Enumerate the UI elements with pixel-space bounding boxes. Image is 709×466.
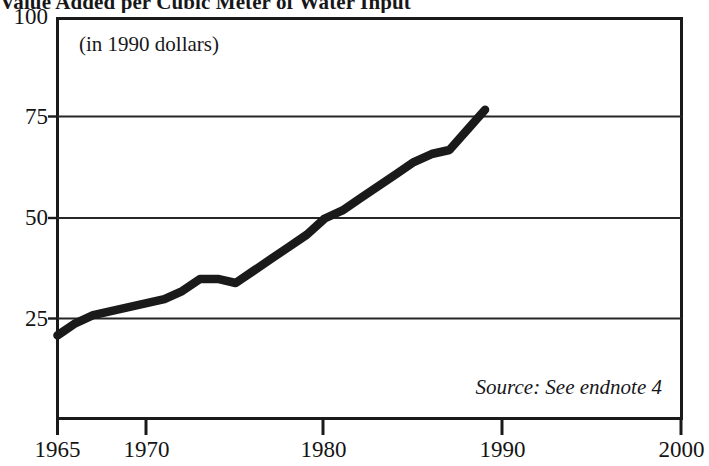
- y-axis-label-100: 100: [0, 5, 48, 28]
- x-axis-label-1980: 1980: [281, 438, 366, 461]
- x-axis-label-1965: 1965: [15, 438, 100, 461]
- y-axis-label-25: 25: [0, 307, 48, 330]
- x-axis-ticks: [58, 420, 682, 435]
- y-axis-ticks: [48, 117, 57, 319]
- source-note: Source: See endnote 4: [476, 376, 662, 398]
- y-axis-label-50: 50: [0, 206, 48, 229]
- x-axis-label-2000: 2000: [639, 438, 709, 461]
- x-axis-label-1990: 1990: [460, 438, 545, 461]
- data-series-line: [58, 110, 486, 336]
- x-axis-label-1970: 1970: [104, 438, 189, 461]
- gridlines: [57, 117, 682, 319]
- y-axis-label-75: 75: [0, 105, 48, 128]
- units-note: (in 1990 dollars): [79, 33, 219, 55]
